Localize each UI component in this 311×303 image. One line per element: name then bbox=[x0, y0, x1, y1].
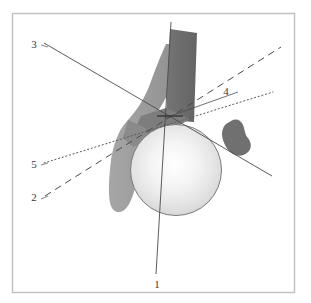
axis-label-2: 2 bbox=[31, 191, 37, 203]
axis-label-3: 3 bbox=[31, 38, 37, 50]
axis-label-5: 5 bbox=[31, 158, 37, 170]
figure-root: 3 5 2 4 1 bbox=[0, 0, 311, 303]
axis-label-1: 1 bbox=[154, 278, 160, 290]
anatomical-diagram-svg: 3 5 2 4 1 bbox=[0, 0, 311, 303]
axis-label-4: 4 bbox=[223, 85, 229, 97]
